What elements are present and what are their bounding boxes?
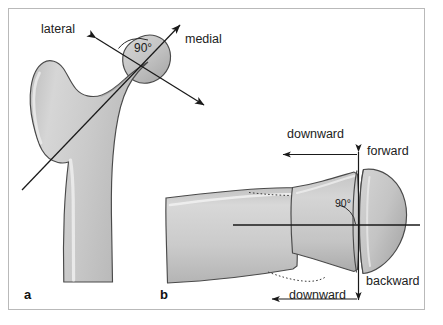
femur-body-a [30, 61, 148, 282]
label-lateral: lateral [41, 23, 75, 36]
label-medial: medial [185, 33, 222, 46]
angle-label-a: 90° [134, 42, 152, 54]
figure-root: lateral medial 90° a downward forward ba… [0, 0, 443, 325]
panel-letter-a: a [24, 288, 31, 301]
hidden-contour-lower-b [268, 272, 326, 281]
panel-letter-b: b [160, 288, 168, 301]
angle-label-b: 90° [335, 198, 351, 209]
label-backward: backward [366, 275, 420, 288]
femoral-neck-b [291, 172, 359, 272]
label-downward-top: downward [287, 128, 344, 141]
label-forward: forward [367, 145, 409, 158]
label-downward-bottom: downward [289, 289, 346, 302]
